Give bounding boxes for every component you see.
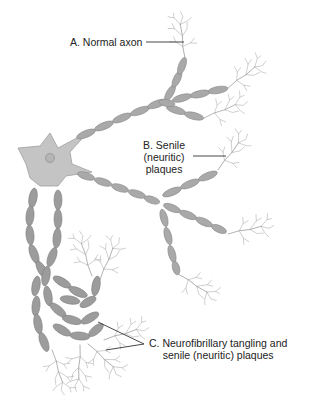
leader-line-c2 xyxy=(106,344,144,350)
label-c-line-1: C. Neurofibrillary tangling and xyxy=(149,337,287,349)
label-a-line-1: A. Normal axon xyxy=(70,36,142,48)
label-neurofibrillary-tangling: C. Neurofibrillary tangling and senile (… xyxy=(149,337,287,361)
label-b-line-1: B. Senile xyxy=(143,139,185,151)
label-normal-axon: A. Normal axon xyxy=(70,36,142,48)
label-c-line-2: senile (neuritic) plaques xyxy=(149,349,287,361)
leader-line-c1 xyxy=(98,322,144,344)
tangled-axons xyxy=(25,187,150,396)
label-senile-plaques: B. Senile (neuritic) plaques xyxy=(143,139,185,175)
label-b-line-2: (neuritic) xyxy=(143,151,185,163)
nucleus xyxy=(46,154,55,163)
normal-axon xyxy=(75,8,270,141)
label-b-line-3: plaques xyxy=(143,163,185,175)
